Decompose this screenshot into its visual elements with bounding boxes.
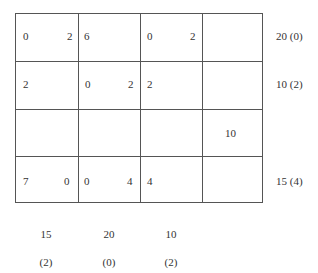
cell-r1c3-left: 0 [147,30,153,42]
cell-r1c3-right: 2 [190,30,196,42]
col3-demand-value: 10 [156,227,186,241]
cell-r2c3-left: 2 [147,78,153,90]
grid-divider [78,14,79,202]
cell-r1c2-left: 6 [84,30,90,42]
cell-r4c2-left: 0 [84,175,90,187]
col1-demand-value: 15 [31,227,61,241]
cell-r2c2-left: 0 [85,78,91,90]
tableau-grid [15,13,263,203]
col2-demand-sub: (0) [94,255,124,269]
row1-supply-label: 20 (0) [276,30,303,42]
cell-r4c3-left: 4 [147,175,153,187]
cell-r2c1-left: 2 [23,78,29,90]
grid-divider [16,109,262,110]
grid-divider [202,14,203,202]
cell-r4c1-right: 0 [64,175,70,187]
cell-r4c2-right: 4 [127,175,133,187]
cell-r3c4-left: 10 [225,127,236,139]
col3-demand-sub: (2) [156,255,186,269]
grid-divider [16,61,262,62]
row2-supply-label: 10 (2) [276,78,303,90]
col1-demand-label: 15 (2) [31,213,61,273]
grid-divider [16,156,262,157]
cell-r1c1-right: 2 [67,30,73,42]
cell-r1c1-left: 0 [23,30,29,42]
col2-demand-value: 20 [94,227,124,241]
cell-r4c1-left: 7 [23,175,29,187]
row4-supply-label: 15 (4) [276,175,303,187]
col3-demand-label: 10 (2) [156,213,186,273]
col1-demand-sub: (2) [31,255,61,269]
grid-divider [140,14,141,202]
cell-r2c2-right: 2 [128,78,134,90]
col2-demand-label: 20 (0) [94,213,124,273]
